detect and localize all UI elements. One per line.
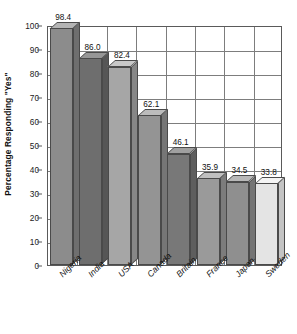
bar-japan[interactable]: [226, 182, 249, 265]
bar-value-label: 62.1: [140, 100, 163, 109]
bar-value-label: 46.1: [169, 138, 192, 147]
bar-france[interactable]: [197, 178, 220, 264]
y-axis-tick-mark: [37, 73, 42, 74]
bar-value-label: 35.9: [199, 163, 222, 172]
y-axis-tick-mark: [37, 241, 42, 242]
bar-front-face: [50, 28, 73, 264]
bar-front-face: [167, 154, 190, 265]
y-axis-tick-mark: [37, 25, 42, 26]
y-axis-tick-labels: 0102030405060708090100: [16, 0, 42, 280]
bar-nigeria[interactable]: [50, 28, 73, 264]
bar-front-face: [138, 115, 161, 264]
y-axis-tick-mark: [37, 193, 42, 194]
bar-value-label: 82.4: [110, 51, 133, 60]
bar-usa[interactable]: [108, 67, 131, 265]
bar-chart: Percentage Responding "Yes" 010203040506…: [0, 0, 297, 334]
y-axis-tick-mark: [37, 97, 42, 98]
bar-india[interactable]: [79, 58, 102, 264]
x-axis-category-labels: NigeriaIndiaUSACanadaBritainFranceJapanS…: [0, 266, 297, 334]
bar-front-face: [197, 178, 220, 264]
bar-front-face: [226, 182, 249, 265]
bar-front-face: [255, 183, 278, 264]
y-axis-tick-mark: [37, 145, 42, 146]
y-axis-tick-mark: [37, 49, 42, 50]
bar-canada[interactable]: [138, 115, 161, 264]
bar-value-label: 86.0: [81, 43, 104, 52]
y-axis-title-text: Percentage Responding "Yes": [3, 72, 13, 195]
plot-area: 98.486.082.462.146.135.934.533.8: [47, 26, 282, 266]
bar-front-face: [108, 67, 131, 265]
bar-value-label: 98.4: [52, 13, 75, 22]
bar-front-face: [79, 58, 102, 264]
y-axis-tick-mark: [37, 169, 42, 170]
bar-britain[interactable]: [167, 154, 190, 265]
bar-sweden[interactable]: [255, 183, 278, 264]
y-axis-tick-mark: [37, 217, 42, 218]
bar-value-label: 34.5: [228, 166, 251, 175]
y-axis-title: Percentage Responding "Yes": [0, 0, 16, 268]
bar-value-label: 33.8: [257, 168, 280, 177]
y-axis-tick-mark: [37, 121, 42, 122]
